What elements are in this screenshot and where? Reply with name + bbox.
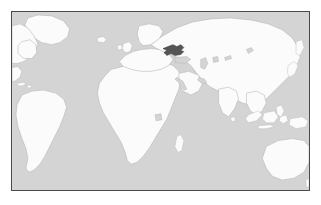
locator-map-image: World locator map [0,0,321,205]
landmass-sri-lanka [231,117,236,122]
highlight-continent-label: Europe [0,0,1,1]
inland-water-lake-victoria [155,114,162,121]
image-title: World locator map [0,0,1,1]
inland-water-aral-sea [213,57,219,63]
landmass-new-zealand [306,178,309,188]
map-border [11,11,310,191]
highlight-country-label: Ukraine [0,0,1,1]
world-map [12,12,309,190]
